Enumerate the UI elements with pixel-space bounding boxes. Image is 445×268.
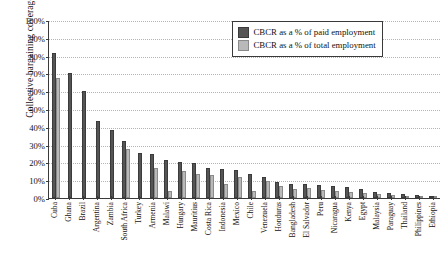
bar-total-employment (126, 149, 130, 198)
bar-group (161, 21, 175, 198)
x-tick-mark (391, 196, 392, 200)
x-label-slot: Mauritius (188, 200, 202, 266)
x-tick-label: Brazil (79, 202, 87, 221)
x-tick-mark (237, 196, 238, 200)
bar-total-employment (293, 189, 297, 198)
x-tick-mark (125, 196, 126, 200)
x-tick-label: Peru (317, 202, 325, 216)
x-tick-mark (139, 196, 140, 200)
bar-paid-employment (110, 130, 114, 198)
bar-group (175, 21, 189, 198)
legend-item: CBCR as a % of total employment (238, 39, 376, 52)
x-tick-label: Ethiopia (429, 202, 437, 228)
bar-paid-employment (82, 91, 86, 198)
bar-group (398, 21, 412, 198)
x-tick-label: Cuba (51, 202, 59, 218)
x-tick-mark (307, 196, 308, 200)
x-tick-label: Costa Rica (205, 202, 213, 235)
y-tick-label: 60% (29, 88, 45, 97)
x-label-slot: Armenia (146, 200, 160, 266)
x-tick-mark (335, 196, 336, 200)
bar-group (217, 21, 231, 198)
x-tick-label: Thailand (401, 202, 409, 229)
bar-total-employment (238, 177, 242, 198)
y-tick-label: 70% (29, 70, 45, 79)
bar-total-employment (224, 184, 228, 198)
x-label-slot: South Africa (118, 200, 132, 266)
legend-item: CBCR as a % of paid employment (238, 26, 376, 39)
y-tick-label: 90% (29, 35, 45, 44)
y-tick-label: 100% (25, 17, 45, 26)
x-label-slot: Chile (244, 200, 258, 266)
bar-group (119, 21, 133, 198)
bar-group (384, 21, 398, 198)
bar-paid-employment (96, 121, 100, 198)
x-tick-label: Mauritius (191, 202, 199, 232)
bar-total-employment (56, 78, 60, 198)
x-tick-mark (349, 196, 350, 200)
bar-group (147, 21, 161, 198)
x-tick-label: Philippines (415, 202, 423, 236)
x-label-slot: Kenya (342, 200, 356, 266)
x-tick-mark (279, 196, 280, 200)
legend-label: CBCR as a % of total employment (254, 41, 376, 50)
x-axis-labels: CubaGhanaBrazilArgentinaZambiaSouth Afri… (48, 200, 440, 266)
bar-group (105, 21, 119, 198)
bar-total-employment (252, 191, 256, 198)
x-tick-label: Kenya (345, 202, 353, 222)
x-label-slot: Ghana (62, 200, 76, 266)
x-tick-mark (363, 196, 364, 200)
x-tick-label: Hungary (177, 202, 185, 229)
x-tick-label: South Africa (121, 202, 129, 241)
x-label-slot: Venezuela (258, 200, 272, 266)
bar-group (189, 21, 203, 198)
x-tick-mark (181, 196, 182, 200)
x-label-slot: Honduras (272, 200, 286, 266)
x-tick-label: Malawi (163, 202, 171, 225)
x-tick-mark (209, 196, 210, 200)
x-tick-label: Zambia (107, 202, 115, 225)
x-tick-mark (251, 196, 252, 200)
x-tick-mark (153, 196, 154, 200)
x-label-slot: Ethiopia (426, 200, 440, 266)
x-tick-label: Bangladesh (289, 202, 297, 237)
x-tick-mark (293, 196, 294, 200)
x-tick-mark (97, 196, 98, 200)
x-tick-label: Nicaragua (331, 202, 339, 233)
y-tick-label: 20% (29, 159, 45, 168)
x-tick-mark (405, 196, 406, 200)
bar-group (91, 21, 105, 198)
x-label-slot: Peru (314, 200, 328, 266)
x-label-slot: Bangladesh (286, 200, 300, 266)
bar-total-employment (307, 188, 311, 198)
x-tick-mark (83, 196, 84, 200)
bar-group (203, 21, 217, 198)
y-tick-label: 10% (29, 177, 45, 186)
x-label-slot: Cuba (48, 200, 62, 266)
x-label-slot: Costa Rica (202, 200, 216, 266)
bar-total-employment (154, 168, 158, 198)
bar-group (49, 21, 63, 198)
bar-total-employment (196, 174, 200, 198)
x-tick-label: Indonesia (219, 202, 227, 232)
x-tick-label: Venezuela (261, 202, 269, 233)
x-label-slot: Indonesia (216, 200, 230, 266)
bar-group (426, 21, 440, 198)
bar-paid-employment (138, 153, 142, 198)
x-tick-mark (419, 196, 420, 200)
x-label-slot: Paraguay (384, 200, 398, 266)
x-tick-mark (55, 196, 56, 200)
x-tick-label: Egypt (359, 202, 367, 220)
bar-total-employment (279, 186, 283, 198)
x-tick-label: El Salvador (303, 202, 311, 238)
x-label-slot: Egypt (356, 200, 370, 266)
x-tick-mark (69, 196, 70, 200)
x-tick-label: Argentina (93, 202, 101, 232)
legend-label: CBCR as a % of paid employment (254, 28, 376, 37)
x-tick-mark (111, 196, 112, 200)
x-tick-label: Turkey (135, 202, 143, 224)
x-tick-mark (195, 196, 196, 200)
x-label-slot: Nicaragua (328, 200, 342, 266)
x-label-slot: Argentina (90, 200, 104, 266)
bar-group (77, 21, 91, 198)
